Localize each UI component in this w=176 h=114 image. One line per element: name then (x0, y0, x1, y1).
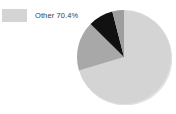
pie-slice-group (77, 10, 171, 104)
pie-svg (76, 9, 172, 105)
legend-label-other: Other 70.4% (35, 9, 78, 22)
legend-swatch-other (2, 9, 27, 22)
chart-legend: Other 70.4% (2, 9, 78, 22)
pie-plot-area (76, 9, 172, 105)
pie-chart-figure: Other 70.4% (0, 0, 176, 114)
